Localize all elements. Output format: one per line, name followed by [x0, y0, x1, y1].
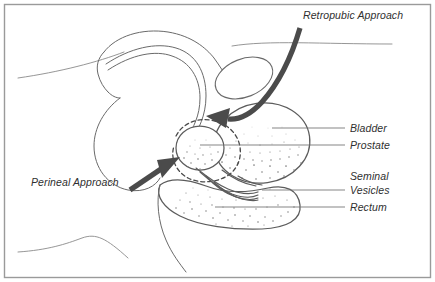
retropubic-arrow-head	[206, 108, 230, 128]
abdomen-contour-left	[18, 52, 124, 78]
seminal-vesicles-label-line2: Vesicles	[350, 184, 390, 196]
rectum-outline	[159, 180, 301, 229]
urethra-double-line	[106, 46, 206, 140]
penis-dorsum	[104, 31, 230, 80]
retropubic-approach-label: Retropubic Approach	[303, 9, 403, 21]
abdomen-contour-right	[232, 43, 392, 46]
prostate-label: Prostate	[350, 139, 390, 151]
perineal-approach-label: Perineal Approach	[31, 176, 119, 188]
glans-base	[108, 92, 120, 98]
prostate-group	[176, 126, 224, 170]
bladder-label: Bladder	[350, 122, 387, 134]
prostate-approaches-figure: Retropubic Approach Perineal Approach Bl…	[0, 0, 435, 282]
perineal-arrow-head	[157, 157, 180, 178]
seminal-vesicles-label-line1: Seminal	[350, 170, 389, 182]
urethra-outer	[106, 46, 206, 140]
thigh-contour	[18, 236, 128, 258]
rectum-label: Rectum	[350, 201, 387, 213]
